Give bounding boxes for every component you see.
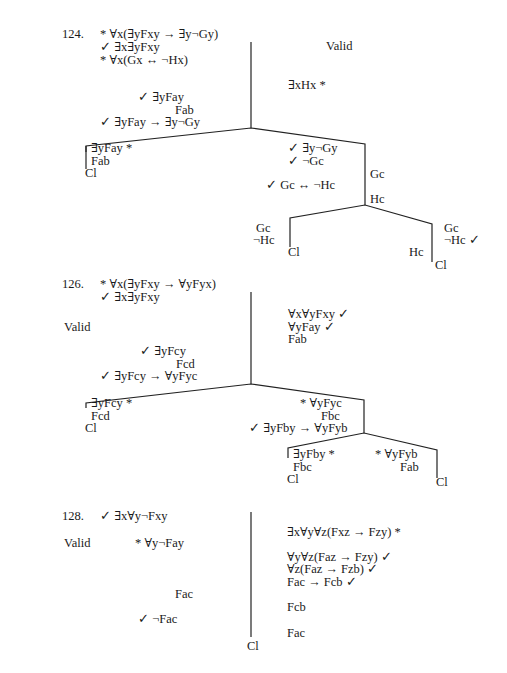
- tree-line: ✓ ∃yFcy → ∀yFyc: [100, 370, 197, 383]
- closed-marker: Cl: [287, 473, 299, 486]
- closed-marker: Cl: [436, 476, 448, 489]
- tree-line: ∃x∀y∀z(Fxz → Fzy) *: [287, 526, 401, 539]
- tree-line: ✓ ∃x∀y¬Fxy: [100, 510, 167, 523]
- tree-line: ✓ ∃yFay → ∃y¬Gy: [100, 116, 200, 129]
- tree-line: ✓ ¬Fac: [138, 613, 177, 626]
- problem-number: 128.: [62, 510, 84, 523]
- premise: ✓ ∃x∃yFxy: [100, 291, 160, 304]
- tree-line: ✓ Gc ↔ ¬Hc: [266, 179, 335, 192]
- tree-line: * ∀y¬Fay: [135, 537, 184, 550]
- tree-line: ∃xHx *: [288, 79, 326, 92]
- tree-line: Gc: [370, 168, 385, 181]
- tree-line: Fab: [400, 461, 419, 474]
- tree-line: Fab: [288, 333, 307, 346]
- tree-line: Fac → Fcb ✓: [287, 576, 357, 589]
- verdict-label: Valid: [64, 537, 90, 550]
- tree-line: Fcb: [287, 601, 306, 614]
- tree-line: Hc: [370, 193, 385, 206]
- tree-line: Hc: [409, 246, 424, 259]
- closed-marker: Cl: [247, 640, 259, 653]
- tree-line: Fac: [175, 588, 193, 601]
- closed-marker: Cl: [288, 246, 300, 259]
- verdict-label: Valid: [326, 40, 352, 53]
- verdict-label: Valid: [64, 321, 90, 334]
- closed-marker: Cl: [85, 167, 97, 180]
- closed-marker: Cl: [435, 259, 447, 272]
- closed-marker: Cl: [85, 422, 97, 435]
- tree-line: ¬Hc ✓: [444, 234, 480, 247]
- tree-line: ✓ ∃yFby → ∀yFyb: [249, 422, 348, 435]
- tree-lines: [0, 0, 507, 673]
- premise: * ∀x(Gx ↔ ¬Hx): [100, 54, 188, 67]
- tree-line: ✓ ¬Gc: [288, 155, 324, 168]
- tree-line: ¬Hc: [253, 234, 275, 247]
- problem-number: 124.: [62, 28, 84, 41]
- problem-number: 126.: [62, 278, 84, 291]
- tree-line: Fac: [287, 627, 305, 640]
